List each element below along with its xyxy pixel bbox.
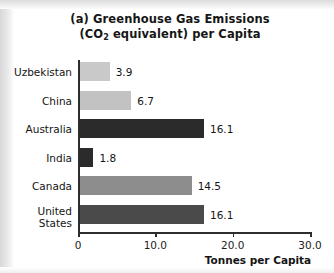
bar bbox=[80, 176, 192, 195]
bar bbox=[80, 148, 94, 167]
x-axis-line bbox=[78, 232, 310, 234]
bar-category-label-line: United bbox=[0, 205, 72, 217]
bar-category-label-line: Uzbekistan bbox=[0, 66, 72, 78]
bar-category-label-line: States bbox=[0, 217, 72, 229]
bar-category-label: China bbox=[0, 95, 72, 107]
bar bbox=[80, 119, 205, 138]
bar bbox=[80, 205, 205, 224]
bar-value-label: 16.1 bbox=[210, 123, 233, 135]
x-axis-tick bbox=[310, 232, 312, 237]
bar bbox=[80, 91, 132, 110]
x-axis-tick bbox=[233, 232, 235, 237]
x-axis-tick-label: 0 bbox=[75, 239, 82, 251]
x-axis-tick bbox=[78, 232, 80, 237]
bar-value-label: 16.1 bbox=[210, 209, 233, 221]
x-axis-tick-label: 20.0 bbox=[221, 239, 244, 251]
bar-category-label: India bbox=[0, 152, 72, 164]
bar-category-label-line: China bbox=[0, 95, 72, 107]
bar-category-label: Uzbekistan bbox=[0, 66, 72, 78]
bar-category-label-line: India bbox=[0, 152, 72, 164]
x-axis-tick bbox=[155, 232, 157, 237]
bar-category-label-line: Canada bbox=[0, 180, 72, 192]
bar bbox=[80, 62, 110, 81]
bar-category-label: UnitedStates bbox=[0, 205, 72, 229]
bar-value-label: 6.7 bbox=[137, 95, 154, 107]
bar-value-label: 14.5 bbox=[198, 180, 221, 192]
chart-figure: (a) Greenhouse Gas Emissions (CO2 equiva… bbox=[0, 0, 334, 273]
bar-value-label: 1.8 bbox=[99, 152, 116, 164]
x-axis-tick-label: 10.0 bbox=[144, 239, 167, 251]
plot-area: 010.020.030.0 Uzbekistan3.9China6.7Austr… bbox=[0, 0, 334, 273]
bar-category-label-line: Australia bbox=[0, 123, 72, 135]
x-axis-tick-label: 30.0 bbox=[298, 239, 321, 251]
x-axis-title: Tonnes per Capita bbox=[188, 254, 328, 266]
bar-value-label: 3.9 bbox=[116, 66, 133, 78]
bar-category-label: Australia bbox=[0, 123, 72, 135]
bar-category-label: Canada bbox=[0, 180, 72, 192]
